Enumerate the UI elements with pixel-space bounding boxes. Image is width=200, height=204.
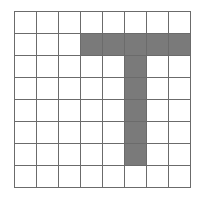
- grid-cell: [59, 56, 81, 78]
- grid-cell: [103, 122, 125, 144]
- grid-cell: [125, 12, 147, 34]
- grid-cell: [147, 122, 169, 144]
- grid-cell: [37, 12, 59, 34]
- grid-cell: [169, 144, 191, 166]
- grid-cell: [125, 166, 147, 188]
- grid-cell: [37, 34, 59, 56]
- grid-cell: [169, 100, 191, 122]
- grid-cell-filled: [125, 122, 147, 144]
- grid-cell-filled: [125, 100, 147, 122]
- grid-cell: [103, 144, 125, 166]
- grid-cell: [169, 122, 191, 144]
- grid-cell: [147, 100, 169, 122]
- grid-cell: [103, 166, 125, 188]
- grid-cell: [37, 78, 59, 100]
- grid-cell: [81, 12, 103, 34]
- grid-cell: [15, 100, 37, 122]
- grid-cell: [169, 166, 191, 188]
- grid-cell: [81, 56, 103, 78]
- grid-cell: [147, 166, 169, 188]
- grid-cell-filled: [125, 144, 147, 166]
- grid-cell-filled: [147, 34, 169, 56]
- grid-cell: [15, 78, 37, 100]
- grid-cell: [37, 144, 59, 166]
- grid-cell: [15, 122, 37, 144]
- grid-cell-filled: [125, 34, 147, 56]
- grid-cell-filled: [125, 78, 147, 100]
- grid-cell: [15, 34, 37, 56]
- grid-cell: [15, 56, 37, 78]
- grid-cell: [81, 78, 103, 100]
- grid-cell: [103, 100, 125, 122]
- grid-cell: [147, 12, 169, 34]
- grid-cell: [103, 78, 125, 100]
- pixel-grid: [14, 11, 191, 188]
- grid-cell: [81, 144, 103, 166]
- grid-cell: [103, 12, 125, 34]
- grid-cell: [59, 78, 81, 100]
- grid-cell-filled: [169, 34, 191, 56]
- grid-cell: [147, 144, 169, 166]
- grid-cell: [81, 166, 103, 188]
- grid-cell: [147, 78, 169, 100]
- grid-cell: [147, 56, 169, 78]
- grid-cell: [37, 166, 59, 188]
- grid-cell: [169, 12, 191, 34]
- grid-cell: [15, 12, 37, 34]
- grid-cell: [59, 100, 81, 122]
- grid-cell: [169, 56, 191, 78]
- grid-cell: [59, 144, 81, 166]
- grid-cell: [169, 78, 191, 100]
- grid-cell: [15, 144, 37, 166]
- grid-cell: [81, 122, 103, 144]
- grid-cell: [37, 100, 59, 122]
- grid-cell: [15, 166, 37, 188]
- grid-cell: [37, 122, 59, 144]
- grid-cell: [59, 34, 81, 56]
- grid-cell-filled: [103, 34, 125, 56]
- grid-cell-filled: [125, 56, 147, 78]
- grid-cell: [81, 100, 103, 122]
- grid-cell: [103, 56, 125, 78]
- grid-cell: [59, 12, 81, 34]
- grid-cell: [37, 56, 59, 78]
- grid-cell: [59, 122, 81, 144]
- grid-cell: [59, 166, 81, 188]
- grid-cell-filled: [81, 34, 103, 56]
